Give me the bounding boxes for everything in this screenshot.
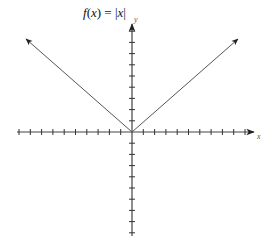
right-branch bbox=[132, 39, 238, 132]
x-axis-label: x bbox=[256, 132, 261, 141]
left-branch bbox=[26, 39, 132, 132]
y-axis-label: y bbox=[133, 15, 138, 24]
x-axis: x bbox=[17, 129, 261, 141]
graph-canvas: f(x) = |x| x y bbox=[0, 0, 274, 246]
chart-title: f(x) = |x| bbox=[83, 5, 126, 20]
y-axis: y bbox=[129, 15, 138, 236]
